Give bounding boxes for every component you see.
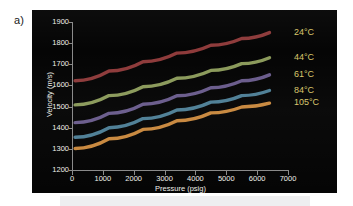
page-edge-haze <box>60 196 310 206</box>
series-label-5: 105°C <box>294 98 319 107</box>
series-label-1: 24°C <box>294 28 314 37</box>
series-label-2: 44°C <box>294 53 314 62</box>
series-label-3: 61°C <box>294 70 314 79</box>
figure-root: a) 12001300140015001600170018001900 0100… <box>0 0 353 206</box>
panel-label: a) <box>14 14 24 26</box>
chart-panel: 12001300140015001600170018001900 0100020… <box>32 10 337 193</box>
series-line-1 <box>75 33 269 81</box>
series-label-4: 84°C <box>294 86 314 95</box>
series-lines <box>32 10 337 193</box>
series-line-5 <box>75 103 269 148</box>
